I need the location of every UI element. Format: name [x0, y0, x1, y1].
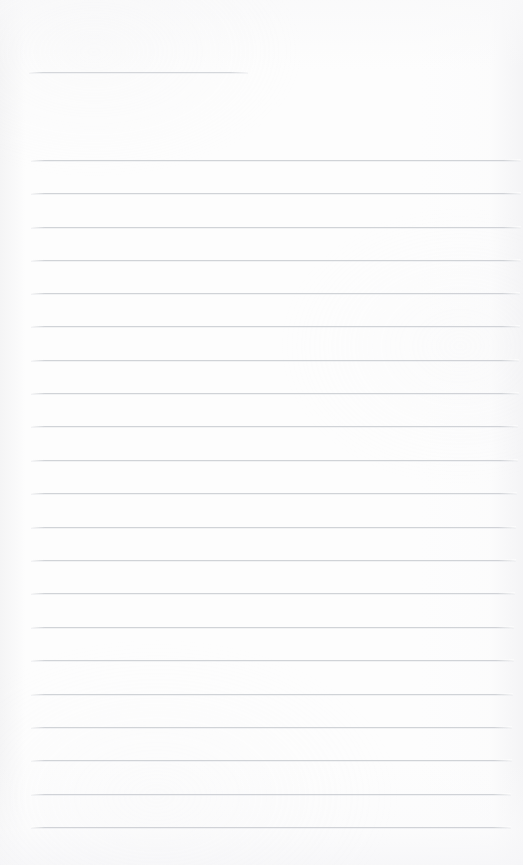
- rule-fade-left: [31, 492, 45, 495]
- rule-fade-left: [31, 459, 45, 462]
- rule-fade-right: [494, 726, 512, 729]
- rule-fade-left: [31, 425, 45, 428]
- ruled-line: [31, 560, 516, 561]
- rule-fade-right: [499, 492, 517, 495]
- ruled-line: [31, 727, 512, 728]
- ruled-line: [31, 326, 520, 327]
- rule-fade-right: [503, 159, 521, 162]
- rule-fade-left: [31, 526, 45, 529]
- rule-fade-right: [503, 192, 521, 195]
- rule-fade-right: [494, 759, 512, 762]
- ruled-line: [31, 360, 519, 361]
- rule-fade-right: [502, 325, 520, 328]
- rule-fade-left: [31, 159, 45, 162]
- rule-fade-right: [503, 226, 521, 229]
- rule-fade-left: [31, 259, 45, 262]
- ruled-line: [31, 694, 513, 695]
- rule-fade-left: [31, 359, 45, 362]
- rule-fade-left: [31, 392, 45, 395]
- ruled-line: [31, 660, 514, 661]
- rule-fade-right: [493, 793, 511, 796]
- rule-fade-right: [493, 826, 511, 829]
- rule-fade-left: [31, 626, 45, 629]
- rule-fade-left: [31, 226, 45, 229]
- rule-fade-right: [500, 425, 518, 428]
- ruled-line: [31, 493, 517, 494]
- rule-fade-right: [500, 459, 518, 462]
- rule-fade-right: [498, 526, 516, 529]
- rule-fade-left: [31, 292, 45, 295]
- rule-fade-right: [497, 592, 515, 595]
- rule-fade-left: [31, 192, 45, 195]
- rule-fade-right: [498, 559, 516, 562]
- rule-fade-left: [31, 559, 45, 562]
- rule-fade-right: [501, 392, 519, 395]
- rule-fade-right: [495, 693, 513, 696]
- ruled-line: [31, 827, 511, 828]
- ruled-line: [31, 193, 521, 194]
- rule-fade-right: [503, 259, 521, 262]
- rule-fade-right: [496, 626, 514, 629]
- rule-fade-right: [502, 292, 520, 295]
- notepad-page: [0, 0, 523, 865]
- ruled-line: [31, 293, 520, 294]
- ruled-line: [31, 460, 518, 461]
- ruled-line: [31, 260, 521, 261]
- ruled-line: [31, 794, 511, 795]
- rule-fade-left: [31, 693, 45, 696]
- ruled-line: [31, 227, 521, 228]
- ruled-line: [31, 160, 521, 161]
- rule-fade-left: [31, 826, 45, 829]
- rule-fade-left: [31, 592, 45, 595]
- ruled-lines-layer: [0, 0, 523, 865]
- ruled-line: [31, 527, 516, 528]
- rule-fade-right: [501, 359, 519, 362]
- ruled-line: [31, 426, 518, 427]
- ruled-line: [31, 593, 515, 594]
- rule-fade-left: [31, 759, 45, 762]
- ruled-line: [31, 760, 512, 761]
- ruled-line: [31, 627, 514, 628]
- rule-fade-right: [496, 659, 514, 662]
- rule-fade-left: [31, 726, 45, 729]
- rule-fade-left: [31, 793, 45, 796]
- ruled-line: [31, 393, 519, 394]
- rule-fade-left: [31, 659, 45, 662]
- rule-fade-left: [31, 325, 45, 328]
